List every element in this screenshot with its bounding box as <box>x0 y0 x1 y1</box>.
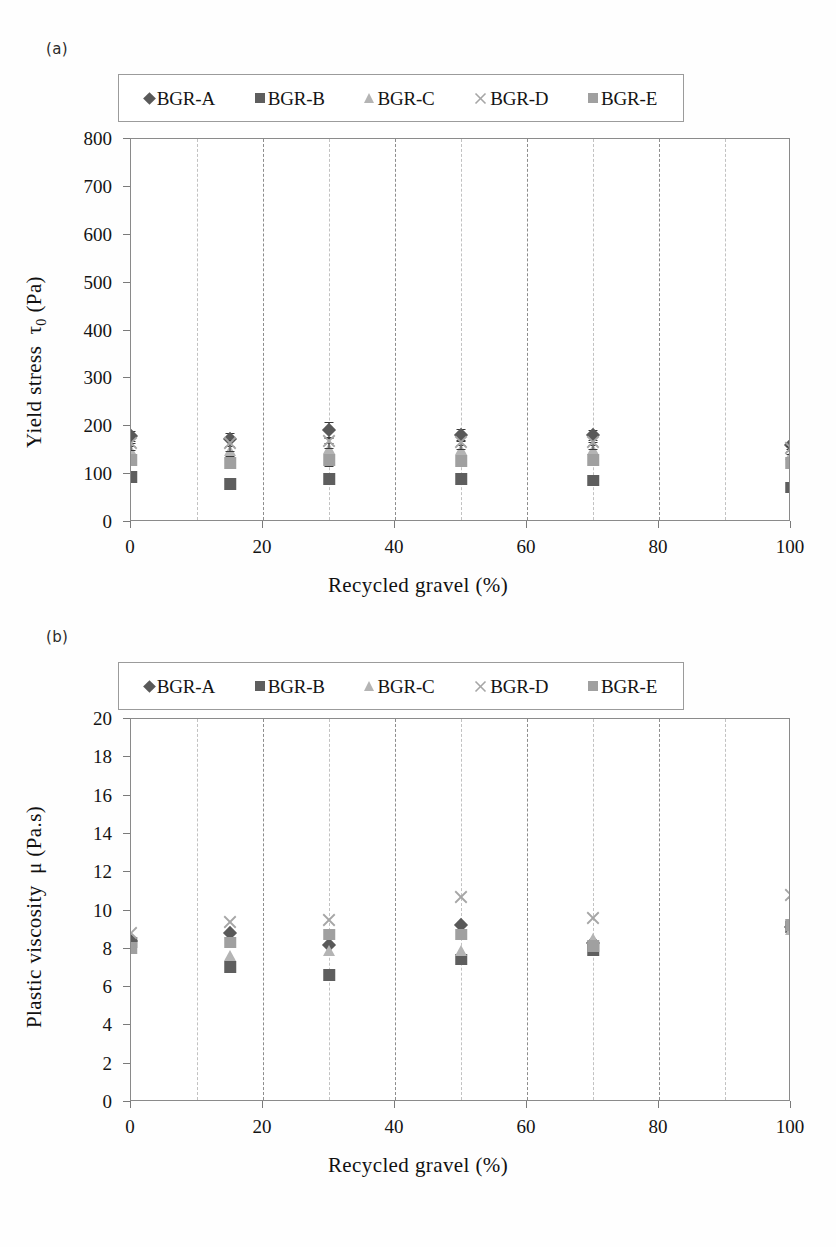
marker-square-icon <box>224 937 236 949</box>
plot-wrap-b: 02468101214161820020406080100Recycled gr… <box>0 618 836 1218</box>
x-axis-tick-label: 80 <box>649 1117 668 1136</box>
gridline-x-minor <box>197 719 198 1100</box>
plot-wrap-a: 0100200300400500600700800020406080100Rec… <box>0 30 836 620</box>
gridline-x-major <box>527 139 528 520</box>
data-point-bgr-b <box>324 471 336 489</box>
gridline-x-minor <box>197 139 198 520</box>
x-axis-tick <box>790 1101 791 1108</box>
marker-x-icon <box>322 433 337 448</box>
marker-square-icon <box>456 473 468 485</box>
y-axis-tick <box>123 377 130 378</box>
marker-square-icon <box>323 454 335 466</box>
gridline-x-major <box>395 719 396 1100</box>
y-axis-tick-label: 12 <box>52 862 112 881</box>
gridline-x-major <box>395 139 396 520</box>
gridline-x-major <box>659 719 660 1100</box>
gridline-x-major <box>263 139 264 520</box>
marker-x-icon <box>454 890 469 905</box>
y-axis-tick-label: 800 <box>52 129 112 148</box>
marker-square-icon <box>130 471 137 483</box>
marker-x-icon <box>784 441 790 456</box>
data-point-bgr-e <box>130 452 137 470</box>
marker-square-icon <box>588 475 600 487</box>
y-axis-tick <box>123 871 130 872</box>
data-point-bgr-d <box>322 433 337 452</box>
marker-square-icon <box>224 457 236 469</box>
marker-x-icon <box>130 926 139 941</box>
x-axis-tick <box>394 521 395 528</box>
y-axis-tick <box>123 330 130 331</box>
y-axis-tick-label: 6 <box>52 977 112 996</box>
y-axis-tick-label: 14 <box>52 823 112 842</box>
gridline-x-minor <box>725 719 726 1100</box>
marker-square-icon <box>323 929 335 941</box>
x-axis-title: Recycled gravel (%) <box>0 573 836 598</box>
gridline-x-minor <box>461 719 462 1100</box>
y-axis-tick-label: 0 <box>52 1092 112 1111</box>
x-axis-tick-label: 40 <box>385 537 404 556</box>
marker-triangle-icon <box>455 945 467 956</box>
y-axis-tick <box>123 795 130 796</box>
x-axis-tick <box>130 1101 131 1108</box>
marker-square-icon <box>130 942 137 954</box>
y-axis-tick <box>123 1024 130 1025</box>
data-point-bgr-e <box>224 934 236 952</box>
data-point-bgr-d <box>454 890 469 909</box>
data-point-bgr-d <box>223 914 238 933</box>
marker-square-icon <box>785 919 790 931</box>
y-axis-tick <box>123 234 130 235</box>
data-point-bgr-b <box>130 469 137 487</box>
x-axis-tick <box>526 1101 527 1108</box>
marker-square-icon <box>324 969 336 981</box>
x-axis-tick-label: 40 <box>385 1117 404 1136</box>
plot-area-chart-b <box>130 718 790 1101</box>
data-point-bgr-d <box>223 436 238 455</box>
data-point-bgr-d <box>784 888 790 907</box>
data-point-bgr-b <box>786 479 790 497</box>
y-axis-tick <box>123 473 130 474</box>
data-point-bgr-c <box>455 942 467 960</box>
gridline-x-minor <box>329 719 330 1100</box>
x-axis-tick-label: 60 <box>517 1117 536 1136</box>
gridline-x-minor <box>725 139 726 520</box>
marker-x-icon <box>130 436 139 451</box>
marker-square-icon <box>785 457 790 469</box>
marker-triangle-icon <box>323 945 335 956</box>
y-axis-tick-label: 700 <box>52 176 112 195</box>
y-axis-tick <box>123 756 130 757</box>
marker-square-icon <box>587 940 599 952</box>
marker-triangle-icon <box>224 950 236 961</box>
x-axis-tick <box>526 521 527 528</box>
y-axis-tick <box>123 986 130 987</box>
x-axis-tick <box>658 1101 659 1108</box>
marker-x-icon <box>454 435 469 450</box>
y-axis-tick-label: 20 <box>52 709 112 728</box>
y-axis-tick-label: 4 <box>52 1015 112 1034</box>
x-axis-tick-label: 100 <box>776 1117 805 1136</box>
x-axis-tick <box>790 521 791 528</box>
y-axis-tick-label: 8 <box>52 938 112 957</box>
y-axis-tick-label: 18 <box>52 747 112 766</box>
data-point-bgr-e <box>323 926 335 944</box>
marker-x-icon <box>586 911 601 926</box>
gridline-x-major <box>659 139 660 520</box>
data-point-bgr-b <box>225 476 237 494</box>
y-axis-tick <box>123 138 130 139</box>
plot-area-chart-a <box>130 138 790 521</box>
data-point-bgr-e <box>785 917 790 935</box>
data-point-bgr-b <box>324 967 336 985</box>
marker-square-icon <box>587 454 599 466</box>
y-axis-tick-label: 2 <box>52 1053 112 1072</box>
data-point-bgr-e <box>587 938 599 956</box>
data-point-bgr-d <box>454 435 469 454</box>
y-axis-tick-label: 400 <box>52 320 112 339</box>
x-axis-tick-label: 0 <box>125 537 135 556</box>
marker-square-icon <box>455 455 467 467</box>
y-axis-tick <box>123 910 130 911</box>
y-axis-tick <box>123 1063 130 1064</box>
x-axis-title: Recycled gravel (%) <box>0 1153 836 1178</box>
y-axis-tick-label: 0 <box>52 512 112 531</box>
y-axis-tick <box>123 718 130 719</box>
x-axis-tick-label: 100 <box>776 537 805 556</box>
y-axis-title: Plastic viscosity μ (Pa.s) <box>22 805 47 1027</box>
